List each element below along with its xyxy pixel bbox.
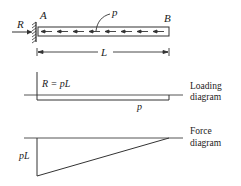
force-max-label: pL — [18, 150, 30, 161]
load-leader-line — [96, 14, 110, 31]
distributed-load-block — [37, 95, 169, 100]
loading-p-label: p — [136, 101, 142, 112]
force-diagram: pL Force diagram — [18, 126, 222, 176]
force-caption-line2: diagram — [190, 138, 222, 148]
loading-diagram: R = pL p Loading diagram — [24, 72, 222, 112]
force-slope-line — [37, 138, 169, 176]
loading-caption-line2: diagram — [190, 92, 222, 102]
distributed-load-arrows — [41, 30, 164, 33]
force-caption-line1: Force — [190, 126, 212, 136]
loading-caption-line1: Loading — [190, 81, 222, 91]
load-label: p — [111, 6, 118, 18]
point-b-label: B — [164, 12, 171, 24]
length-label: L — [100, 46, 107, 58]
cantilever-beam: R A B p — [12, 6, 171, 43]
axial-load-diagram: R A B p L R = pL p Loading diagram pL Fo… — [0, 0, 241, 186]
reaction-label: R — [16, 18, 24, 30]
reaction-equation: R = pL — [41, 78, 71, 89]
point-a-label: A — [39, 9, 47, 21]
